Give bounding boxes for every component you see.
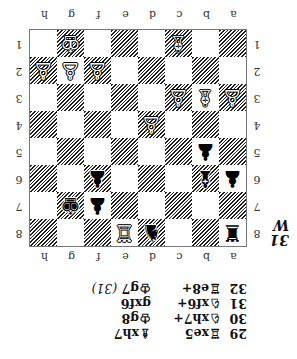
move-number: 30 (221, 311, 247, 326)
white-bishop-icon: ♗ (195, 84, 216, 111)
square-d2 (138, 57, 165, 84)
square-h8 (30, 219, 57, 246)
square-c1: ♗ (165, 30, 192, 57)
black-move-text: ♔g7 (122, 281, 151, 296)
file-labels-bottom: abcdefgh (31, 8, 247, 21)
white-move: ♘xf6+ (151, 296, 221, 311)
move-row: 32 ♖e8+ ♔g7 (31) (47, 281, 247, 296)
white-bishop-icon: ♗ (168, 30, 189, 57)
move-row: 30 ♘xh7+ ♔g8 (47, 311, 247, 326)
black-move: gxf6 (51, 296, 151, 311)
square-f4 (84, 111, 111, 138)
white-pawn-icon: ♙ (60, 57, 81, 84)
rank-label: 1 (13, 31, 25, 58)
rank-label: 4 (13, 112, 25, 139)
diagram-number: 31 (270, 232, 289, 247)
white-move: ♖e8+ (151, 281, 221, 296)
white-king-icon: ♔ (60, 30, 81, 57)
file-label: d (139, 8, 166, 21)
square-g6 (57, 165, 84, 192)
white-move: ♘xh7+ (151, 311, 221, 326)
rank-label: 4 (251, 112, 263, 139)
file-label: b (193, 8, 220, 21)
square-c3: ♙ (165, 84, 192, 111)
square-h3 (30, 84, 57, 111)
square-a5 (219, 138, 246, 165)
square-f2: ♙ (84, 57, 111, 84)
rank-label: 5 (13, 139, 25, 166)
chess-board: ♜♞♖♟♚♟♝♟♟♙♙♗♙♙♙♙♗♔ (29, 29, 247, 247)
black-pawn-icon: ♟ (87, 165, 108, 192)
white-pawn-icon: ♙ (87, 57, 108, 84)
file-label: f (85, 8, 112, 21)
file-label: e (112, 250, 139, 263)
rank-label: 2 (251, 58, 263, 85)
move-number: 32 (221, 281, 247, 296)
square-f8 (84, 219, 111, 246)
side-to-move: W (270, 217, 289, 232)
file-label: g (58, 8, 85, 21)
rank-label: 8 (13, 220, 25, 247)
square-c8 (165, 219, 192, 246)
file-label: g (58, 250, 85, 263)
square-c2 (165, 57, 192, 84)
rank-labels-left: 87654321 (251, 31, 263, 247)
square-e6 (111, 165, 138, 192)
square-e8: ♖ (111, 219, 138, 246)
black-knight-icon: ♞ (141, 219, 162, 246)
square-f1 (84, 30, 111, 57)
square-d1 (138, 30, 165, 57)
square-a7 (219, 192, 246, 219)
square-h6 (30, 165, 57, 192)
square-h7 (30, 192, 57, 219)
square-h5 (30, 138, 57, 165)
rank-label: 7 (13, 193, 25, 220)
move-list: 29 ♖xe5 ♗xh7 30 ♘xh7+ ♔g8 31 ♘xf6+ gxf6 … (47, 281, 247, 341)
file-label: c (166, 250, 193, 263)
file-label: e (112, 8, 139, 21)
square-g7: ♚ (57, 192, 84, 219)
white-pawn-icon: ♙ (168, 84, 189, 111)
square-g4 (57, 111, 84, 138)
black-pawn-icon: ♟ (195, 138, 216, 165)
black-move: ♗xh7 (51, 326, 151, 341)
square-c7 (165, 192, 192, 219)
black-move-text: ♗xh7 (114, 326, 151, 341)
square-b5: ♟ (192, 138, 219, 165)
square-g3 (57, 84, 84, 111)
square-c4 (165, 111, 192, 138)
square-d8: ♞ (138, 219, 165, 246)
square-b7 (192, 192, 219, 219)
black-rook-icon: ♜ (222, 219, 243, 246)
chess-diagram-page: 29 ♖xe5 ♗xh7 30 ♘xh7+ ♔g8 31 ♘xf6+ gxf6 … (0, 0, 297, 359)
square-b1 (192, 30, 219, 57)
square-b3: ♗ (192, 84, 219, 111)
file-label: c (166, 8, 193, 21)
square-e7 (111, 192, 138, 219)
square-a8: ♜ (219, 219, 246, 246)
rank-label: 3 (251, 85, 263, 112)
file-label: d (139, 250, 166, 263)
file-label: f (85, 250, 112, 263)
square-a4 (219, 111, 246, 138)
rank-label: 7 (251, 193, 263, 220)
black-pawn-icon: ♟ (222, 165, 243, 192)
square-f5 (84, 138, 111, 165)
black-king-icon: ♚ (60, 192, 81, 219)
square-d6 (138, 165, 165, 192)
square-h4 (30, 111, 57, 138)
square-g1: ♔ (57, 30, 84, 57)
white-move: ♖xe5 (151, 326, 221, 341)
rank-label: 2 (13, 58, 25, 85)
square-f7: ♟ (84, 192, 111, 219)
square-b2 (192, 57, 219, 84)
white-pawn-icon: ♙ (222, 84, 243, 111)
square-b6: ♝ (192, 165, 219, 192)
move-row: 29 ♖xe5 ♗xh7 (47, 326, 247, 341)
square-e1 (111, 30, 138, 57)
square-g5 (57, 138, 84, 165)
black-move-text: ♔g8 (122, 311, 151, 326)
rank-labels-right: 87654321 (13, 31, 25, 247)
file-label: b (193, 250, 220, 263)
square-a2 (219, 57, 246, 84)
